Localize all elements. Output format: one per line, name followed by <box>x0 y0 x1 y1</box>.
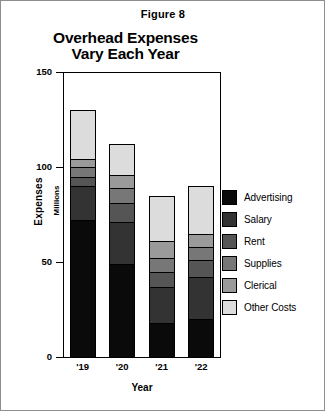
bar-segment[interactable] <box>149 241 175 258</box>
x-axis-tick-label: '19 <box>63 361 103 372</box>
legend-label: Clerical <box>244 280 277 291</box>
bar-segment[interactable] <box>70 186 96 220</box>
bar-segment[interactable] <box>149 196 175 242</box>
x-axis-tick-label: '22 <box>181 361 221 372</box>
legend-swatch <box>222 190 237 205</box>
bar-segment[interactable] <box>70 220 96 357</box>
x-axis-tick-label: '21 <box>142 361 182 372</box>
legend: AdvertisingSalaryRentSuppliesClericalOth… <box>222 186 322 318</box>
figure-root: Figure 8 Overhead Expenses Vary Each Yea… <box>0 0 326 412</box>
stacked-bar[interactable] <box>149 196 175 357</box>
stacked-bar[interactable] <box>70 110 96 357</box>
x-axis-title: Year <box>63 382 221 393</box>
bar-segment[interactable] <box>109 203 135 222</box>
bar-segment[interactable] <box>188 319 214 357</box>
bar-segment[interactable] <box>149 287 175 323</box>
bar-segment[interactable] <box>70 177 96 187</box>
chart-title: Overhead Expenses Vary Each Year <box>18 30 233 62</box>
legend-item[interactable]: Rent <box>222 230 322 252</box>
bar-segment[interactable] <box>70 110 96 159</box>
legend-item[interactable]: Advertising <box>222 186 322 208</box>
bar-segment[interactable] <box>149 272 175 287</box>
legend-swatch <box>222 212 237 227</box>
y-axis-tick <box>56 357 64 358</box>
bar-segment[interactable] <box>109 175 135 188</box>
legend-swatch <box>222 300 237 315</box>
chart-title-line2: Vary Each Year <box>18 46 233 62</box>
legend-swatch <box>222 256 237 271</box>
bar-segment[interactable] <box>109 264 135 357</box>
legend-label: Supplies <box>244 258 282 269</box>
chart-title-line1: Overhead Expenses <box>53 29 198 46</box>
legend-item[interactable]: Other Costs <box>222 296 322 318</box>
legend-item[interactable]: Salary <box>222 208 322 230</box>
figure-caption: Figure 8 <box>0 8 326 20</box>
bar-segment[interactable] <box>109 144 135 174</box>
x-axis-tick-label: '20 <box>102 361 142 372</box>
bar-segment[interactable] <box>70 167 96 177</box>
y-axis-tick-label: 50 <box>22 256 52 267</box>
bar-segment[interactable] <box>188 186 214 234</box>
stacked-bar[interactable] <box>188 186 214 357</box>
bar-segment[interactable] <box>188 234 214 247</box>
bar-segment[interactable] <box>149 323 175 357</box>
legend-swatch <box>222 278 237 293</box>
y-axis-tick-label: 150 <box>22 66 52 77</box>
y-axis-title: Expenses <box>33 157 44 247</box>
legend-label: Rent <box>244 236 265 247</box>
y-axis-tick-label: 0 <box>22 351 52 362</box>
bar-segment[interactable] <box>70 159 96 167</box>
y-axis-subtitle: Millions <box>52 156 61 246</box>
stacked-bar[interactable] <box>109 144 135 357</box>
legend-label: Salary <box>244 214 272 225</box>
bar-group <box>63 72 221 357</box>
bar-segment[interactable] <box>109 188 135 203</box>
bar-segment[interactable] <box>188 260 214 277</box>
bar-segment[interactable] <box>188 247 214 260</box>
legend-label: Other Costs <box>244 302 296 313</box>
bar-segment[interactable] <box>109 222 135 264</box>
legend-item[interactable]: Clerical <box>222 274 322 296</box>
legend-swatch <box>222 234 237 249</box>
bar-segment[interactable] <box>149 258 175 271</box>
legend-label: Advertising <box>244 192 292 203</box>
legend-item[interactable]: Supplies <box>222 252 322 274</box>
bar-segment[interactable] <box>188 277 214 319</box>
